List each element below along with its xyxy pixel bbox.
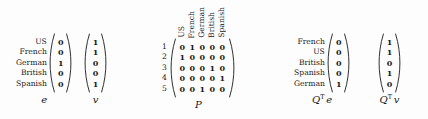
matrix-p-cells: 0 1 0 0 0 1 0 0 0 0 0 0 0 1 xyxy=(176,40,229,96)
matrix-cell: 0 xyxy=(335,37,343,48)
row-number: 4 xyxy=(162,73,167,84)
vector-qte-row-labels: French US British Spanish German xyxy=(294,33,327,93)
matrix-row: 1 xyxy=(335,79,343,90)
vector-qtv-row: 1 1 0 1 0 xyxy=(378,33,401,93)
matrix-cell: 0 xyxy=(197,73,207,84)
matrix-row: 0 xyxy=(335,68,343,79)
matrix-row: 1 xyxy=(386,37,394,48)
matrix-cell: 0 xyxy=(207,42,217,53)
caption-operand: e xyxy=(326,94,332,105)
row-number: 5 xyxy=(162,84,167,95)
caption-base: Q xyxy=(380,94,388,105)
matrix-row: 0 xyxy=(335,47,343,58)
matrix-cell: 0 xyxy=(57,37,65,48)
matrix-cell: 0 xyxy=(386,58,394,69)
matrix-cell: 0 xyxy=(187,52,197,63)
vector-v-block: 1 1 0 0 1 v xyxy=(84,33,107,106)
column-label-text: Spanish xyxy=(218,7,226,38)
matrix-cell: 1 xyxy=(217,73,227,84)
matrix-row: 0 xyxy=(335,37,343,48)
matrix-cell: 0 xyxy=(187,73,197,84)
matrix-row: 0 xyxy=(335,58,343,69)
vector-v-row: 1 1 0 0 1 xyxy=(84,33,107,93)
vector-e-row: US French German British Spanish 0 0 1 0… xyxy=(16,33,72,93)
matrix-cell: 1 xyxy=(207,63,217,74)
matrix-cell: 0 xyxy=(207,84,217,95)
matrix-cell: 1 xyxy=(386,68,394,79)
row-label: British xyxy=(294,58,325,69)
matrix-cell: 0 xyxy=(57,79,65,90)
vector-e-cells: 0 0 1 0 0 xyxy=(55,35,66,91)
row-label: US xyxy=(294,47,325,58)
column-label: US xyxy=(177,26,187,38)
matrix-cell: 0 xyxy=(197,42,207,53)
matrix-cell: 1 xyxy=(187,42,197,53)
column-label: British xyxy=(207,12,217,38)
matrix-cell: 0 xyxy=(177,42,187,53)
matrix-cell: 1 xyxy=(57,58,65,69)
vector-qte-row: French US British Spanish German 0 0 0 0… xyxy=(294,33,350,93)
vector-e-matrix: 0 0 1 0 0 xyxy=(49,33,72,93)
matrix-cell: 0 xyxy=(92,58,100,69)
matrix-cell: 0 xyxy=(187,63,197,74)
matrix-p-row-numbers: 1 2 3 4 5 xyxy=(162,38,170,98)
vector-qte-caption: QT e xyxy=(312,94,332,107)
vector-v-cells: 1 1 0 0 1 xyxy=(90,35,101,91)
column-label-text: US xyxy=(178,26,186,38)
vector-qte-block: French US British Spanish German 0 0 0 0… xyxy=(294,33,350,107)
matrix-row: 1 xyxy=(386,68,394,79)
matrix-row: 0 xyxy=(57,79,65,90)
matrix-p-caption: P xyxy=(195,99,202,111)
row-label: French xyxy=(16,47,47,58)
matrix-cell: 0 xyxy=(57,47,65,58)
row-number: 1 xyxy=(162,42,167,53)
matrix-cell: 1 xyxy=(177,52,187,63)
vector-e-row-labels: US French German British Spanish xyxy=(16,33,49,93)
right-paren-icon xyxy=(344,33,350,93)
column-label-text: British xyxy=(208,12,216,38)
row-label: British xyxy=(16,68,47,79)
matrix-cell: 1 xyxy=(335,79,343,90)
matrix-cell: 1 xyxy=(92,37,100,48)
right-paren-icon xyxy=(66,33,72,93)
matrix-cell: 0 xyxy=(197,52,207,63)
matrix-cell: 0 xyxy=(177,63,187,74)
matrix-row: 0 xyxy=(92,58,100,69)
matrix-cell: 1 xyxy=(386,37,394,48)
matrix-cell: 0 xyxy=(217,63,227,74)
column-label: French xyxy=(187,11,197,38)
column-label: Spanish xyxy=(217,7,227,38)
matrix-p-matrix: 0 1 0 0 0 1 0 0 0 0 0 0 0 1 xyxy=(170,38,235,98)
matrix-cell: 0 xyxy=(335,58,343,69)
matrix-cell: 0 xyxy=(177,73,187,84)
matrix-cell: 0 xyxy=(92,68,100,79)
row-label: German xyxy=(16,58,47,69)
matrix-row: 0 0 1 0 0 xyxy=(177,84,227,95)
column-label-text: German xyxy=(198,7,206,38)
matrix-row: 0 xyxy=(57,37,65,48)
vector-v-matrix: 1 1 0 0 1 xyxy=(84,33,107,93)
matrix-row: 1 xyxy=(57,58,65,69)
matrix-cell: 0 xyxy=(335,68,343,79)
vector-e-caption: e xyxy=(41,94,47,106)
matrix-cell: 0 xyxy=(187,84,197,95)
matrix-cell: 0 xyxy=(57,68,65,79)
right-paren-icon xyxy=(101,33,107,93)
matrix-row: 1 xyxy=(92,37,100,48)
matrix-cell: 0 xyxy=(207,73,217,84)
row-label: German xyxy=(294,79,325,90)
row-number: 2 xyxy=(162,52,167,63)
matrix-row: 0 0 0 0 1 xyxy=(177,73,227,84)
matrix-cell: 0 xyxy=(197,63,207,74)
matrix-row: 1 xyxy=(92,79,100,90)
column-label-text: French xyxy=(188,11,196,38)
vector-qtv-cells: 1 1 0 1 0 xyxy=(384,35,395,91)
matrix-cell: 0 xyxy=(207,52,217,63)
row-label: French xyxy=(294,37,325,48)
vector-qtv-block: 1 1 0 1 0 QT v xyxy=(378,33,401,107)
matrix-cell: 1 xyxy=(386,47,394,58)
row-label: Spanish xyxy=(294,68,325,79)
matrix-row: 1 0 0 0 0 xyxy=(177,52,227,63)
matrix-row: 0 1 0 0 0 xyxy=(177,42,227,53)
matrix-row: 1 xyxy=(386,47,394,58)
